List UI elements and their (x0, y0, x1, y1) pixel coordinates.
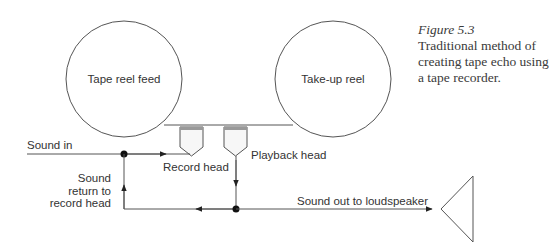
sound-return-label-1: Sound (78, 172, 111, 184)
playback-head-label: Playback head (251, 149, 326, 161)
playback-head (224, 127, 247, 156)
sound-return-label-3: record head (50, 197, 111, 209)
take-up-reel-label: Take-up reel (301, 73, 364, 85)
sound-out-label: Sound out to loudspeaker (297, 195, 428, 207)
take-up-reel: Take-up reel (275, 21, 391, 137)
sound-in-label: Sound in (27, 139, 72, 151)
figure-caption: Figure 5.3 Traditional method of creatin… (418, 22, 552, 86)
tape-reel-feed-label: Tape reel feed (88, 73, 161, 85)
loudspeaker-icon (441, 176, 473, 242)
figure-label: Figure 5.3 (418, 22, 552, 38)
figure-caption-text: Traditional method of creating tape echo… (418, 38, 549, 85)
tape-reel-feed: Tape reel feed (66, 21, 182, 137)
record-head-label: Record head (163, 161, 229, 173)
record-head (180, 127, 203, 156)
sound-return-label-2: return to (68, 185, 111, 197)
